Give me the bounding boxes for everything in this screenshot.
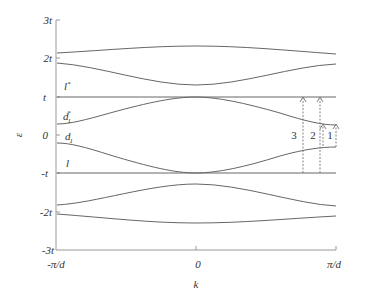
- curve-d1: [57, 143, 336, 173]
- y-tick-label: 2t: [43, 52, 53, 64]
- label-l: l: [66, 157, 69, 169]
- transition-arrows: [300, 97, 339, 173]
- y-tick-label: 0: [43, 129, 49, 141]
- y-tick-label: t: [43, 91, 47, 103]
- label-d1-star: d1*: [63, 109, 71, 125]
- y-tick-label: -t: [41, 167, 49, 179]
- curve-lower-outer: [57, 214, 336, 223]
- x-tick-labels: -π/d 0 π/d: [47, 258, 341, 270]
- label-l-star: l*: [64, 80, 71, 92]
- y-axis-title: ε: [12, 132, 24, 137]
- y-tick-label: -3t: [42, 244, 55, 256]
- x-tick-label: -π/d: [47, 258, 65, 270]
- curve-d1-star: [57, 97, 336, 125]
- y-tick-labels: 3t 2t t 0 -t -2t -3t: [40, 14, 55, 256]
- x-tick-label: π/d: [327, 258, 342, 270]
- x-axis-title: k: [194, 278, 200, 290]
- x-tick-label: 0: [195, 258, 201, 270]
- curve-lower-inner: [57, 184, 336, 206]
- y-tick-label: -2t: [40, 206, 53, 218]
- curve-labels: l* d1* d1 l: [63, 80, 73, 169]
- y-tick-label: 3t: [42, 14, 53, 26]
- curve-upper-inner: [57, 63, 336, 85]
- curve-upper-outer: [57, 46, 336, 54]
- arrow-label-2: 2: [310, 129, 316, 141]
- arrow-label-1: 1: [327, 129, 333, 141]
- label-d1: d1: [65, 130, 73, 145]
- band-structure-chart: 3t 2t t 0 -t -2t -3t -π/d 0 π/d k ε: [0, 0, 365, 302]
- arrow-label-3: 3: [291, 129, 297, 141]
